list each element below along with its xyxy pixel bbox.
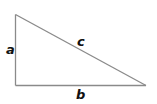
label-c: c bbox=[77, 34, 85, 49]
label-b: b bbox=[76, 87, 85, 102]
side-c-hypotenuse-line bbox=[16, 15, 147, 86]
right-triangle-diagram: a c b bbox=[0, 0, 157, 104]
label-a: a bbox=[6, 42, 15, 57]
